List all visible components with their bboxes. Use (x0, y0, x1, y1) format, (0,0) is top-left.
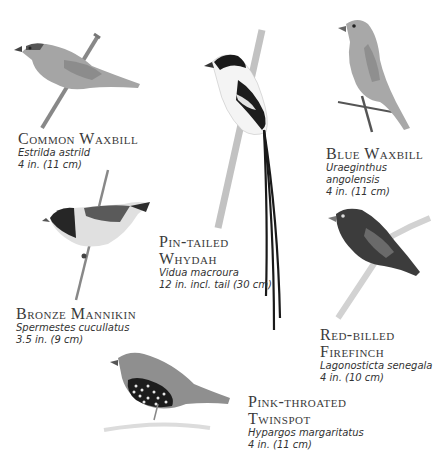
label-pin-tailed-whydah: Pin-tailed Whydah Vidua macroura 12 in. … (159, 233, 272, 291)
scientific-name: Spermestes cucullatus (16, 322, 136, 334)
scientific-name: Vidua macroura (159, 267, 272, 279)
size: 4 in. (10 cm) (320, 372, 433, 384)
common-waxbill-illustration (14, 34, 140, 128)
red-billed-firefinch-illustration (328, 209, 430, 318)
label-bronze-mannikin: Bronze Mannikin Spermestes cucullatus 3.… (16, 305, 136, 346)
common-name-line2: Twinspot (248, 410, 364, 427)
bird-illustrations (0, 0, 440, 455)
scientific-name: Lagonosticta senegala (320, 360, 433, 372)
pink-throated-twinspot-illustration (104, 353, 230, 430)
label-pink-throated-twinspot: Pink-throated Twinspot Hypargos margarit… (248, 393, 364, 451)
common-name: Blue Waxbill (326, 145, 440, 162)
scientific-name: Hypargos margaritatus (248, 427, 364, 439)
size: 3.5 in. (9 cm) (16, 334, 136, 346)
common-name-line1: Pin-tailed (159, 233, 272, 250)
size: 4 in. (11 cm) (248, 439, 364, 451)
common-name-line1: Pink-throated (248, 393, 364, 410)
size: 4 in. (11 cm) (326, 186, 440, 198)
label-common-waxbill: Common Waxbill Estrilda astrild 4 in. (1… (18, 130, 138, 171)
scientific-name: Estrilda astrild (18, 147, 138, 159)
common-name-line2: Firefinch (320, 343, 433, 360)
size: 12 in. incl. tail (30 cm) (159, 279, 272, 291)
common-name-line1: Red-billed (320, 326, 433, 343)
common-name-line2: Whydah (159, 250, 272, 267)
common-name: Bronze Mannikin (16, 305, 136, 322)
bird-identification-plate: Common Waxbill Estrilda astrild 4 in. (1… (0, 0, 440, 455)
bronze-mannikin-illustration (42, 170, 150, 300)
label-red-billed-firefinch: Red-billed Firefinch Lagonosticta senega… (320, 326, 433, 384)
common-name: Common Waxbill (18, 130, 138, 147)
scientific-name: Uraeginthus angolensis (326, 162, 440, 186)
label-blue-waxbill: Blue Waxbill Uraeginthus angolensis 4 in… (326, 145, 440, 198)
size: 4 in. (11 cm) (18, 159, 138, 171)
blue-waxbill-illustration (338, 20, 410, 132)
